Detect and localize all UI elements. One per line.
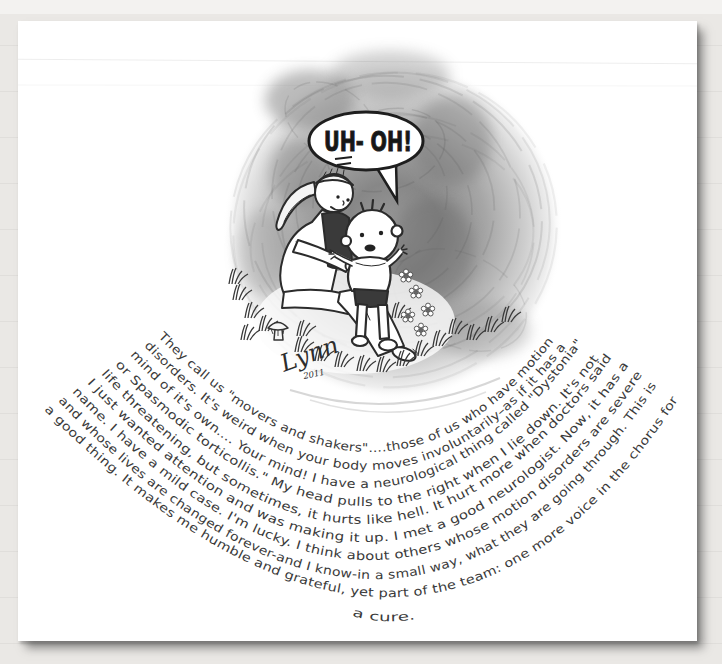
- speech-bubble-text: UH- OH!: [324, 127, 412, 157]
- cartoon-drawing: UH- OH!: [0, 0, 722, 664]
- baby-foot: [352, 336, 368, 346]
- baby-mouth: [365, 245, 376, 252]
- baby-ear: [341, 236, 351, 246]
- essay-line: a cure.: [351, 605, 416, 624]
- baby-leg: [378, 305, 389, 339]
- baby-ear: [392, 226, 403, 237]
- scanned-cartoon-page: { "artwork": { "speech_bubble": "UH- OH!…: [0, 0, 722, 664]
- baby-leg: [356, 304, 367, 337]
- baby-head: [346, 210, 398, 262]
- baby-foot: [379, 340, 397, 351]
